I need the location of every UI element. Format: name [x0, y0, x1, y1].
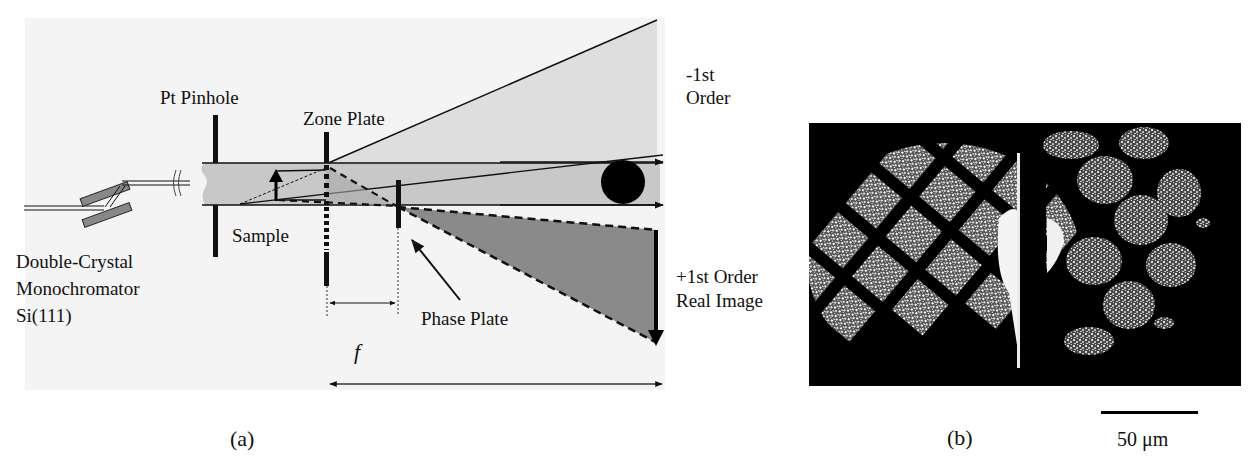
- minus-first-order-label-line1: -1st: [686, 63, 715, 86]
- monochromator-label-line2: Monochromator: [16, 277, 139, 300]
- pinhole-label: Pt Pinhole: [160, 86, 239, 109]
- beam-stop-circle: [601, 160, 645, 204]
- phase-plate-label: Phase Plate: [421, 307, 508, 330]
- panel-b-caption: (b): [947, 425, 973, 451]
- plus-first-order-label-line2: Real Image: [676, 289, 763, 312]
- pinhole-upper: [213, 115, 218, 163]
- monochromator-label-line3: Si(111): [16, 304, 72, 327]
- scale-bar: [1101, 411, 1198, 414]
- zone-plate-upper: [324, 132, 329, 163]
- panel-a-caption: (a): [230, 426, 254, 452]
- minus-first-order-label-line2: Order: [686, 86, 730, 109]
- micrograph-render: [809, 123, 1241, 386]
- zone-plate-label: Zone Plate: [303, 107, 385, 130]
- focal-length-label: f: [354, 340, 360, 363]
- monochromator-label-line1: Double-Crystal: [16, 250, 133, 273]
- sample-label: Sample: [232, 224, 289, 247]
- beam-body: [201, 163, 660, 205]
- pinhole-lower: [213, 205, 218, 257]
- phase-plate: [396, 180, 401, 228]
- micrograph-image: [809, 123, 1241, 386]
- plus-first-order-label-line1: +1st Order: [676, 265, 758, 288]
- scale-bar-label: 50 μm: [1117, 428, 1168, 451]
